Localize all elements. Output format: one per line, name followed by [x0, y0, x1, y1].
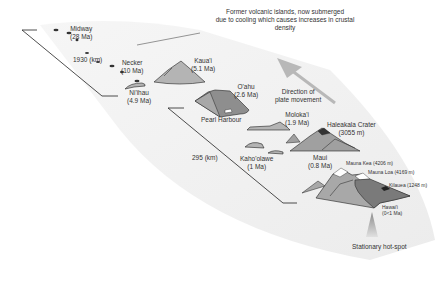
label-distance-1930: 1930 (km)	[73, 56, 102, 64]
label-necker: Necker(10 Ma)	[121, 59, 143, 75]
label-maui: Maui(0.8 Ma)	[308, 154, 332, 170]
label-distance-295: 295 (km)	[192, 154, 218, 162]
label-niihau: Ni'ihau(4.9 Ma)	[127, 89, 151, 105]
label-plate-movement: Direction ofplate movement	[275, 88, 321, 104]
label-mauna-loa: Mauna Loa (4169 m)	[368, 169, 414, 175]
label-molokai: Moloka'i(1.9 Ma)	[285, 111, 309, 127]
label-oahu: O'ahu(2.6 Ma)	[234, 83, 258, 99]
label-haleakala: Haleakala Crater(3055 m)	[327, 121, 376, 137]
label-mauna-kea: Mauna Kea (4206 m)	[346, 160, 393, 166]
label-pearl-harbour: Pearl Harbour	[201, 116, 241, 124]
label-midway: Midway(28 Ma)	[70, 25, 92, 41]
label-kauai: Kaua'i(5.1 Ma)	[191, 57, 215, 73]
label-hotspot: Stationary hot-spot	[352, 243, 407, 251]
label-hawaii: Hawai'i(0<1 Ma)	[382, 204, 402, 216]
label-kilauea: Kilauea (1248 m)	[389, 182, 427, 188]
submerged-note: Former volcanic islands, now submerged d…	[185, 8, 385, 31]
label-kahoolawe: Kaho'olawe(1 Ma)	[240, 155, 273, 171]
hawaiian-chain-diagram	[0, 0, 446, 283]
